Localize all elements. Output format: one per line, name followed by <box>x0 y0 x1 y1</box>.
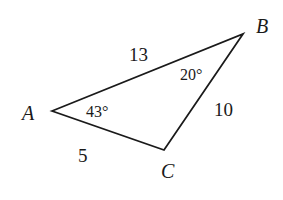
vertex-label-a: A <box>20 102 35 124</box>
side-label-bc: 10 <box>214 99 233 120</box>
side-label-ab: 13 <box>129 44 148 65</box>
triangle-svg: A B C 13 10 5 43° 20° <box>0 0 283 200</box>
side-label-ac: 5 <box>78 145 88 166</box>
angle-label-b: 20° <box>180 66 202 83</box>
triangle-diagram: A B C 13 10 5 43° 20° <box>0 0 283 200</box>
vertex-label-b: B <box>256 15 268 37</box>
angle-label-a: 43° <box>86 103 108 120</box>
vertex-label-c: C <box>161 160 175 182</box>
